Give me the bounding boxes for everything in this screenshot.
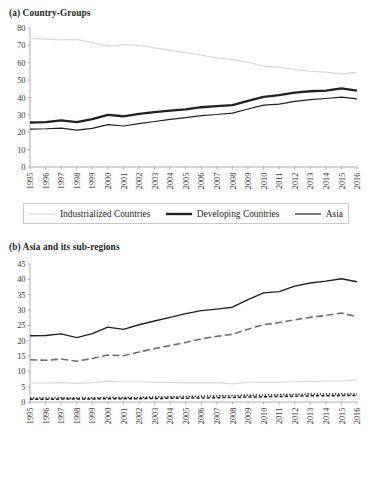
legend-item[interactable]: Industrialized Countries <box>29 209 150 219</box>
x-tick-label: 2006 <box>197 408 206 425</box>
y-tick-label: 40 <box>17 275 25 284</box>
legend-swatch-solid-bold <box>166 210 192 218</box>
x-tick-label: 2002 <box>135 408 144 425</box>
x-tick-label: 2002 <box>135 173 144 190</box>
x-tick-label: 2008 <box>229 408 238 425</box>
x-tick-label: 1999 <box>88 408 97 425</box>
y-tick-label: 40 <box>17 94 25 103</box>
x-tick-label: 2006 <box>197 173 206 190</box>
y-tick-label: 5 <box>21 383 25 392</box>
y-tick-label: 15 <box>17 352 25 361</box>
y-tick-label: 30 <box>17 111 25 120</box>
x-tick-label: 2013 <box>306 173 315 190</box>
x-tick-label: 2003 <box>151 173 160 190</box>
x-tick-label: 1996 <box>42 173 51 190</box>
legend-item-label: Asia <box>326 209 343 219</box>
y-tick-label: 45 <box>17 260 25 269</box>
y-tick-label: 80 <box>17 24 25 33</box>
x-tick-label: 2014 <box>322 407 331 425</box>
x-tick-label: 2008 <box>229 173 238 190</box>
legend-swatch-solid-light <box>29 210 55 218</box>
x-tick-label: 1997 <box>57 173 66 190</box>
x-tick-label: 2010 <box>260 408 269 425</box>
legend-swatch-solid-thin <box>295 210 321 218</box>
y-tick-label: 70 <box>17 41 25 50</box>
x-tick-label: 2004 <box>166 172 175 190</box>
chart-a: 0102030405060708019951996199719981999200… <box>0 20 372 203</box>
y-tick-label: 60 <box>17 59 25 68</box>
series-line-asia <box>30 279 357 338</box>
chart-b-wrap: 0510152025303540451995199619971998199920… <box>0 254 372 444</box>
y-tick-label: 20 <box>17 337 25 346</box>
x-tick-label: 2015 <box>338 173 347 190</box>
x-tick-label: 2016 <box>353 173 362 190</box>
x-tick-label: 1998 <box>73 408 82 425</box>
panel-a-title: (a) Country-Groups <box>0 0 372 20</box>
panel-country-groups: (a) Country-Groups 010203040506070801995… <box>0 0 372 234</box>
x-tick-label: 2003 <box>151 408 160 425</box>
y-tick-label: 50 <box>17 76 25 85</box>
chart-b: 0510152025303540451995199619971998199920… <box>0 254 372 444</box>
figure-root: (a) Country-Groups 010203040506070801995… <box>0 0 372 496</box>
series-line-industrialized-countries <box>30 38 357 73</box>
y-tick-label: 0 <box>21 398 25 407</box>
x-tick-label: 1997 <box>57 408 66 425</box>
x-tick-label: 2005 <box>182 173 191 190</box>
y-tick-label: 0 <box>21 163 25 172</box>
panel-asia-subregions: (b) Asia and its sub-regions 05101520253… <box>0 234 372 496</box>
x-tick-label: 2011 <box>275 173 284 189</box>
x-tick-label: 2007 <box>213 173 222 190</box>
y-tick-label: 35 <box>17 291 25 300</box>
x-tick-label: 2001 <box>120 408 129 425</box>
x-tick-label: 2001 <box>120 173 129 190</box>
series-line-asia <box>30 97 357 130</box>
y-tick-label: 20 <box>17 128 25 137</box>
x-tick-label: 2015 <box>338 408 347 425</box>
x-tick-label: 2012 <box>291 173 300 190</box>
chart-a-wrap: 0102030405060708019951996199719981999200… <box>0 20 372 203</box>
x-tick-label: 2012 <box>291 408 300 425</box>
y-tick-label: 10 <box>17 146 25 155</box>
x-tick-label: 2016 <box>353 408 362 425</box>
x-tick-label: 1998 <box>73 173 82 190</box>
y-tick-label: 10 <box>17 367 25 376</box>
x-tick-label: 1996 <box>42 408 51 425</box>
x-tick-label: 2009 <box>244 408 253 425</box>
series-line-southeast-asia <box>30 380 357 384</box>
y-tick-label: 25 <box>17 321 25 330</box>
x-tick-label: 2000 <box>104 173 113 190</box>
x-tick-label: 2010 <box>260 173 269 190</box>
panel-b-title: (b) Asia and its sub-regions <box>0 234 372 254</box>
legend-item-label: Industrialized Countries <box>60 209 150 219</box>
legend-item[interactable]: Developing Countries <box>166 209 280 219</box>
x-tick-label: 2011 <box>275 408 284 424</box>
legend-item-label: Developing Countries <box>197 209 280 219</box>
x-tick-label: 2013 <box>306 408 315 425</box>
x-tick-label: 2009 <box>244 173 253 190</box>
series-line-developing-countries <box>30 88 357 122</box>
x-tick-label: 2000 <box>104 408 113 425</box>
legend-country-groups: Industrialized CountriesDeveloping Count… <box>23 203 349 224</box>
x-tick-label: 1995 <box>26 173 35 190</box>
x-tick-label: 1999 <box>88 173 97 190</box>
legend-item[interactable]: Asia <box>295 209 343 219</box>
x-tick-label: 2004 <box>166 407 175 425</box>
x-tick-label: 2007 <box>213 408 222 425</box>
x-tick-label: 2005 <box>182 408 191 425</box>
x-tick-label: 2014 <box>322 172 331 190</box>
x-tick-label: 1995 <box>26 408 35 425</box>
y-tick-label: 30 <box>17 306 25 315</box>
